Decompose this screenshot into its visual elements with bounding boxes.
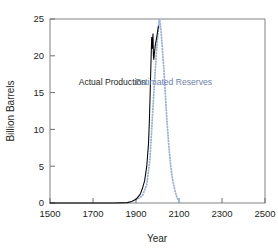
y-tick-label-5: 5 <box>39 161 44 172</box>
x-axis-title: Year <box>147 233 168 244</box>
x-tick-label-2300: 2300 <box>211 208 232 219</box>
x-tick-label-1900: 1900 <box>125 208 146 219</box>
y-tick-label-15: 15 <box>33 87 44 98</box>
x-tick-label-2100: 2100 <box>168 208 189 219</box>
y-axis-title: Billion Barrels <box>5 80 16 141</box>
y-tick-label-25: 25 <box>33 13 44 24</box>
y-tick-label-0: 0 <box>39 197 44 208</box>
annotation-estimated-reserves: Estimated Reserves <box>135 77 212 87</box>
y-tick-label-20: 20 <box>33 50 44 61</box>
production-reserves-line-chart: 0510152025 150017001900210023002500 Year… <box>0 0 278 250</box>
x-tick-label-1500: 1500 <box>39 208 60 219</box>
x-tick-label-2500: 2500 <box>254 208 275 219</box>
y-tick-label-10: 10 <box>33 124 44 135</box>
x-tick-label-1700: 1700 <box>82 208 103 219</box>
chart-figure: 0510152025 150017001900210023002500 Year… <box>0 0 278 250</box>
